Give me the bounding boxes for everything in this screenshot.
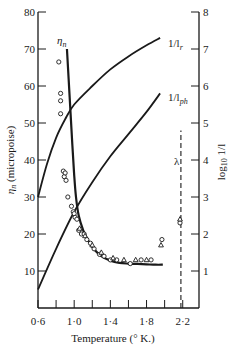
y-right-tick-label: 5 <box>203 117 209 129</box>
y-right-tick-label: 4 <box>203 154 209 166</box>
y-left-tick-label: 40 <box>24 154 36 166</box>
data-point-triangle <box>122 257 127 261</box>
data-point-triangle <box>133 257 138 261</box>
data-point-circle <box>63 171 67 175</box>
data-point-triangle <box>99 250 104 254</box>
y-axis-right-title: log10 1/l <box>215 144 229 180</box>
y-axis-left-title: ηn (micropoise) <box>4 125 18 194</box>
data-point-triangle <box>111 255 116 259</box>
data-point-circle <box>57 60 61 64</box>
data-point-circle <box>66 195 70 199</box>
y-right-tick-label: 1 <box>203 265 209 277</box>
data-point-triangle <box>159 243 164 247</box>
data-point-triangle <box>178 217 183 221</box>
y-left-tick-label: 60 <box>24 80 36 92</box>
y-right-tick-label: 8 <box>203 6 209 18</box>
data-point-circle <box>59 91 63 95</box>
y-left-tick-label: 10 <box>24 265 36 277</box>
data-point-circle <box>149 258 153 262</box>
data-point-circle <box>59 99 63 103</box>
lambda-label: λ <box>174 155 180 167</box>
data-point-circle <box>128 262 132 266</box>
viscosity-temperature-chart: 1020304050607080123456780·61·01·41·82·2 … <box>0 0 237 356</box>
data-point-circle <box>69 204 73 208</box>
x-tick-label: 1·0 <box>67 315 82 327</box>
y-left-tick-label: 30 <box>24 191 36 203</box>
data-point-circle <box>64 178 68 182</box>
y-right-tick-label: 7 <box>203 43 209 55</box>
data-point-circle <box>160 237 164 241</box>
axes: 1020304050607080123456780·61·01·41·82·2 <box>24 6 209 327</box>
lr-label: 1/lr <box>168 37 184 52</box>
y-left-tick-label: 70 <box>24 43 36 55</box>
x-tick-label: 0·6 <box>31 315 46 327</box>
curves <box>38 38 181 308</box>
x-tick-label: 1·4 <box>103 315 118 327</box>
y-left-tick-label: 50 <box>24 117 36 129</box>
data-point-circle <box>75 217 79 221</box>
eta-n-label: ηn <box>57 34 66 49</box>
y-left-tick-label: 80 <box>24 6 36 18</box>
data-point-circle <box>139 258 143 262</box>
y-right-tick-label: 2 <box>203 228 209 240</box>
data-points <box>57 60 183 266</box>
chart-canvas: 1020304050607080123456780·61·01·41·82·2 … <box>0 0 237 356</box>
x-axis-title: Temperature (° K.) <box>71 332 155 345</box>
y-right-tick-label: 3 <box>203 191 209 203</box>
x-tick-label: 2·2 <box>175 315 190 327</box>
x-tick-label: 1·8 <box>139 315 154 327</box>
lph-label: 1/lph <box>168 91 188 106</box>
data-point-circle <box>59 112 63 116</box>
data-point-triangle <box>144 257 149 261</box>
y-right-tick-label: 6 <box>203 80 209 92</box>
y-left-tick-label: 20 <box>24 228 36 240</box>
